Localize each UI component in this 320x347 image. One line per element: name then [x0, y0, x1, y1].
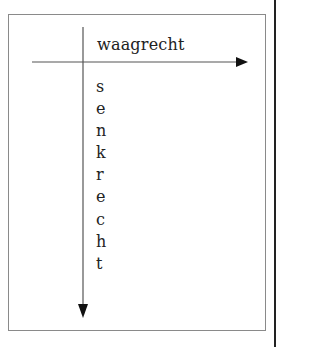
vertical-letter: e: [96, 186, 106, 208]
horizontal-label: waagrecht: [97, 36, 185, 54]
down-arrow-icon: [78, 304, 88, 318]
vertical-letter: k: [96, 142, 106, 164]
vertical-letter: c: [96, 209, 106, 231]
vertical-letter: n: [96, 120, 106, 142]
right-arrow-icon: [236, 57, 248, 67]
vertical-label: s e n k r e c h t: [96, 76, 106, 275]
vertical-letter: r: [96, 164, 106, 186]
vertical-letter: e: [96, 98, 106, 120]
vertical-letter: s: [96, 76, 106, 98]
vertical-letter: t: [96, 253, 106, 275]
vertical-letter: h: [96, 231, 106, 253]
